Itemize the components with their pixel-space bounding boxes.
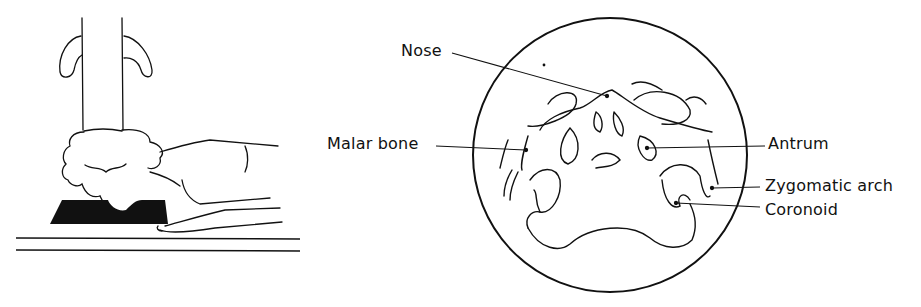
figure-drawing [0,0,921,307]
label-malar-bone: Malar bone [327,134,418,153]
label-zygomatic-arch: Zygomatic arch [765,176,893,195]
radiograph-circle [473,18,747,292]
label-nose: Nose [401,41,442,60]
table-line-top [16,238,300,239]
table-line-bottom [16,250,300,251]
label-antrum: Antrum [768,134,829,153]
speck [543,64,546,67]
chin-block [50,200,168,224]
label-coronoid: Coronoid [765,200,838,219]
skull-outline [500,82,718,248]
